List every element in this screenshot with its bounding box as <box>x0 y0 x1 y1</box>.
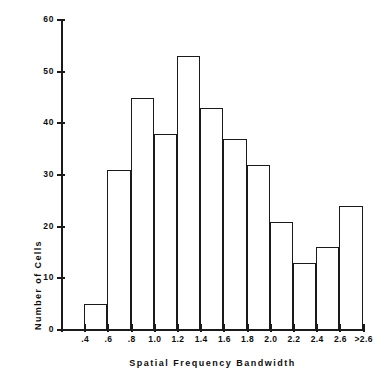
histogram-bar <box>177 56 200 331</box>
y-tick-label-container: 30 <box>12 169 54 179</box>
histogram-bar <box>270 222 293 332</box>
histogram-bar <box>154 134 177 331</box>
y-tick-label-container: 40 <box>12 117 54 127</box>
x-axis-title: Spatial Frequency Bandwidth <box>61 358 364 368</box>
y-tick-label-container: 10 <box>12 272 54 282</box>
histogram-bar <box>339 206 362 331</box>
histogram-bar <box>247 165 270 331</box>
y-tick-50 <box>57 71 65 73</box>
y-tick-30 <box>57 174 65 176</box>
y-tick-40 <box>57 122 65 124</box>
histogram-bar <box>84 304 107 331</box>
y-tick-label: 20 <box>14 221 54 231</box>
y-tick-label: 40 <box>14 117 54 127</box>
histogram-bar <box>316 247 339 331</box>
histogram-bar <box>131 98 154 332</box>
y-tick-20 <box>57 226 65 228</box>
x-tick-13 <box>363 324 365 332</box>
histogram-bar <box>200 108 223 331</box>
histogram-bar <box>107 170 130 331</box>
y-tick-label-container: 50 <box>12 66 54 76</box>
histogram-bar <box>223 139 246 331</box>
y-axis-title-container: Number of Cells <box>16 130 32 250</box>
y-tick-label: 60 <box>14 14 54 24</box>
y-tick-label-container: 0 <box>12 324 54 334</box>
y-tick-label: 30 <box>14 169 54 179</box>
y-tick-label-container: 20 <box>12 221 54 231</box>
plot-area: Number of Cells 0102030405060 .4.6.81.01… <box>0 0 388 382</box>
y-tick-label: 50 <box>14 66 54 76</box>
histogram-bar <box>293 263 316 331</box>
x-tick-label: >2.6 <box>344 334 384 344</box>
y-tick-label-container: 60 <box>12 14 54 24</box>
x-tick-0 <box>61 324 63 332</box>
y-tick-label: 0 <box>14 324 54 334</box>
y-tick-label: 10 <box>14 272 54 282</box>
y-tick-60 <box>57 19 65 21</box>
y-tick-10 <box>57 277 65 279</box>
histogram-figure: Number of Cells 0102030405060 .4.6.81.01… <box>0 0 388 382</box>
